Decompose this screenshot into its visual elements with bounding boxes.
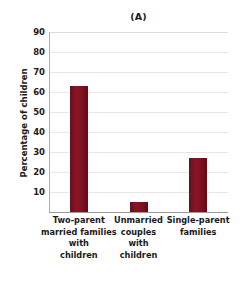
x-tick-label: Single-parentfamilies xyxy=(156,215,240,238)
y-axis-line xyxy=(49,32,50,213)
y-tick-label-40: 40 xyxy=(19,128,45,137)
y-tick-label-80: 80 xyxy=(19,48,45,57)
y-tick-label-60: 60 xyxy=(19,88,45,97)
x-axis-tick-labels: Two-parentmarried familieswithchildrenUn… xyxy=(26,215,244,291)
y-tick-label-50: 50 xyxy=(19,108,45,117)
gridline-90 xyxy=(49,32,228,33)
bar xyxy=(130,202,148,212)
gridline-80 xyxy=(49,52,228,53)
bar xyxy=(70,86,88,212)
bar-chart-figure: (A) Percentage of children 9080706050403… xyxy=(0,0,244,293)
x-tick-label-line: Single-parent xyxy=(156,215,240,227)
x-tick-label-line: with xyxy=(97,238,181,250)
y-tick-label-10: 10 xyxy=(19,188,45,197)
y-tick-label-90: 90 xyxy=(19,28,45,37)
x-axis-line xyxy=(49,212,228,213)
y-axis-tick-labels: 908070605040302010 xyxy=(17,32,45,213)
chart-title: (A) xyxy=(49,11,228,22)
y-tick-label-70: 70 xyxy=(19,68,45,77)
x-tick-label-line: children xyxy=(97,250,181,262)
gridline-70 xyxy=(49,72,228,73)
bar xyxy=(189,158,207,212)
y-tick-label-30: 30 xyxy=(19,148,45,157)
plot-area xyxy=(49,32,228,213)
x-tick-label-line: families xyxy=(156,227,240,239)
y-tick-label-20: 20 xyxy=(19,168,45,177)
